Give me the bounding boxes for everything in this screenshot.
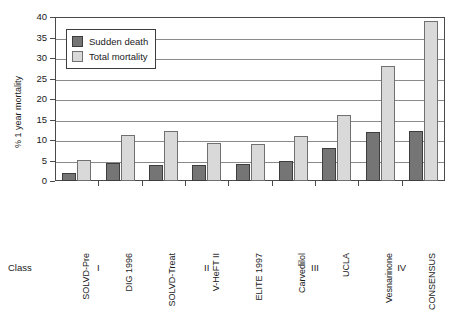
class-marker-IV: IV	[397, 262, 406, 274]
class-axis-row: Class IIIIIIIV	[0, 262, 458, 278]
bar-total-mortality-1	[121, 135, 135, 181]
x-tick-2	[142, 181, 143, 186]
bar-sudden-death-6	[322, 148, 336, 181]
legend-swatch-total-mortality	[72, 51, 83, 62]
legend-item-total-mortality: Total mortality	[72, 49, 148, 64]
x-category-label-7: Vesnarinone	[384, 253, 394, 303]
chart-legend: Sudden death Total mortality	[66, 29, 156, 69]
y-axis-ticks: 0510152025303540	[0, 0, 55, 288]
bar-sudden-death-0	[62, 173, 76, 181]
bar-sudden-death-7	[366, 132, 380, 181]
y-tick-25: 25	[0, 79, 55, 80]
bar-total-mortality-2	[164, 131, 178, 181]
bar-total-mortality-4	[251, 144, 265, 181]
bar-total-mortality-8	[424, 21, 438, 181]
legend-item-sudden-death: Sudden death	[72, 34, 148, 49]
y-tick-label-10: 10	[36, 134, 47, 145]
x-tick-4	[228, 181, 229, 186]
bar-total-mortality-7	[381, 66, 395, 181]
bar-sudden-death-3	[192, 165, 206, 181]
y-tick-15: 15	[0, 120, 55, 121]
class-marker-III: III	[311, 262, 319, 274]
y-tick-30: 30	[0, 58, 55, 59]
bar-total-mortality-0	[77, 160, 91, 181]
legend-label-sudden-death: Sudden death	[89, 36, 148, 47]
y-tick-label-30: 30	[36, 52, 47, 63]
bar-sudden-death-1	[106, 163, 120, 181]
class-marker-II: II	[204, 262, 209, 274]
y-tick-label-0: 0	[42, 175, 47, 186]
y-tick-label-40: 40	[36, 11, 47, 22]
legend-swatch-sudden-death	[72, 36, 83, 47]
y-tick-0: 0	[0, 181, 55, 182]
x-tick-8	[402, 181, 403, 186]
bar-sudden-death-8	[409, 131, 423, 181]
bar-sudden-death-2	[149, 165, 163, 181]
y-tick-20: 20	[0, 99, 55, 100]
bar-sudden-death-5	[279, 161, 293, 182]
y-tick-5: 5	[0, 161, 55, 162]
class-marker-I: I	[97, 262, 100, 274]
y-tick-35: 35	[0, 38, 55, 39]
y-tick-label-25: 25	[36, 73, 47, 84]
class-axis-title: Class	[8, 262, 32, 274]
y-tick-label-35: 35	[36, 32, 47, 43]
x-tick-7	[358, 181, 359, 186]
bar-total-mortality-5	[294, 136, 308, 182]
x-tick-5	[272, 181, 273, 186]
bar-total-mortality-3	[207, 143, 221, 181]
bar-sudden-death-4	[236, 164, 250, 181]
y-tick-label-5: 5	[42, 155, 47, 166]
y-tick-label-15: 15	[36, 114, 47, 125]
x-axis-category-labels: SOLVD-PreDIG 1996SOLVD-TreatV-HeFT IIELI…	[55, 187, 445, 257]
y-tick-40: 40	[0, 17, 55, 18]
x-tick-3	[185, 181, 186, 186]
x-tick-1	[98, 181, 99, 186]
bar-total-mortality-6	[337, 115, 351, 181]
legend-label-total-mortality: Total mortality	[89, 51, 148, 62]
y-tick-10: 10	[0, 140, 55, 141]
y-tick-label-20: 20	[36, 93, 47, 104]
x-tick-6	[315, 181, 316, 186]
